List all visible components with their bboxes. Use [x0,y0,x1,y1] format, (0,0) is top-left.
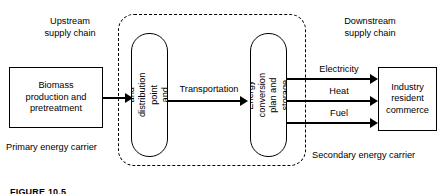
flow-heat-label: Heat [300,86,378,98]
flow-transportation-label: Transportation [168,84,250,96]
figure-canvas: Upstream supply chain Downstream supply … [0,0,442,194]
node-collection-distribution-storage-label: Collection and distribution point and st… [131,73,168,117]
secondary-energy-carrier-label: Secondary energy carrier [312,150,442,162]
arrow-transportation-line [168,100,242,102]
arrow-biomass-to-collection-line [103,97,127,99]
node-collection-distribution-storage: Collection and distribution point and st… [131,33,168,157]
primary-energy-carrier-label: Primary energy carrier [6,142,116,154]
figure-caption: FIGURE 10.5 [10,187,66,194]
node-biomass-production: Biomass production and pretreatment [9,67,103,128]
arrow-transportation-head [240,96,248,106]
upstream-supply-chain-label: Upstream supply chain [24,16,116,39]
arrow-electricity-line [287,78,372,80]
node-energy-conversion-storage: Energy conversion plan and storage [250,33,287,157]
arrow-heat-head [370,96,378,106]
arrow-heat-line [287,100,372,102]
arrow-fuel-line [287,122,372,124]
arrow-fuel-head [370,118,378,128]
flow-fuel-label: Fuel [300,108,378,120]
flow-electricity-label: Electricity [300,64,378,76]
node-industry-resident-commerce: Industry resident commerce [378,67,437,131]
node-energy-conversion-storage-label: Energy conversion plan and storage [250,73,287,117]
arrow-electricity-head [370,74,378,84]
downstream-supply-chain-label: Downstream supply chain [318,16,422,39]
